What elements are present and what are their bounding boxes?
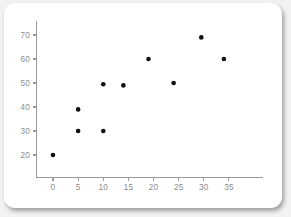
y-axis-ticks: 203040506070 xyxy=(20,31,36,160)
data-points-group xyxy=(51,35,226,157)
page-root: 203040506070 05101520253035 xyxy=(0,0,291,217)
y-tick-label: 60 xyxy=(20,55,30,64)
data-point xyxy=(101,129,106,134)
x-tick-label: 15 xyxy=(124,183,134,192)
x-tick-label: 5 xyxy=(76,183,81,192)
x-tick-label: 25 xyxy=(174,183,184,192)
y-tick-label: 40 xyxy=(20,103,30,112)
data-point xyxy=(76,129,81,134)
y-tick-label: 50 xyxy=(20,79,30,88)
data-point xyxy=(101,82,106,87)
x-tick-label: 10 xyxy=(99,183,109,192)
data-point xyxy=(199,35,204,40)
data-point xyxy=(76,107,81,112)
x-tick-label: 0 xyxy=(51,183,56,192)
data-point xyxy=(222,57,227,62)
data-point xyxy=(171,81,176,86)
y-tick-label: 20 xyxy=(20,151,30,160)
data-point xyxy=(146,57,151,62)
data-point xyxy=(51,153,56,158)
x-tick-label: 35 xyxy=(224,183,234,192)
axes-group xyxy=(37,21,263,178)
x-tick-label: 20 xyxy=(149,183,159,192)
x-tick-label: 30 xyxy=(199,183,209,192)
y-tick-label: 30 xyxy=(20,127,30,136)
y-tick-label: 70 xyxy=(20,31,30,40)
scatter-plot: 203040506070 05101520253035 xyxy=(4,3,282,208)
chart-card: 203040506070 05101520253035 xyxy=(4,3,282,208)
x-axis-ticks: 05101520253035 xyxy=(51,178,234,193)
data-point xyxy=(121,83,126,88)
